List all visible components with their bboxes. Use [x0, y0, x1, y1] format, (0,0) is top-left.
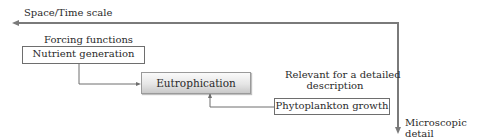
arrow-down-icon: [395, 127, 401, 134]
node-phytoplankton-growth: Phytoplankton growth: [274, 98, 390, 115]
space-time-axis: [12, 20, 398, 26]
connector-nutrient-eutrophication: [79, 63, 141, 86]
relevant-description-label: Relevant for a detailed description: [285, 69, 385, 91]
microscopic-detail-label: Microscopic detail: [405, 117, 467, 139]
node-eutrophication: Eutrophication: [141, 72, 251, 94]
node-label: Eutrophication: [156, 77, 236, 89]
relevant-line-1: Relevant for a detailed: [285, 69, 385, 80]
node-nutrient-generation: Nutrient generation: [22, 46, 145, 64]
arrow-left-icon: [12, 20, 19, 26]
relevant-line-2: description: [285, 80, 385, 91]
connector-phytoplankton-eutrophication: [208, 93, 274, 107]
microscopic-line-1: Microscopic: [405, 117, 467, 128]
node-label: Nutrient generation: [33, 48, 135, 59]
node-label: Phytoplankton growth: [276, 100, 389, 111]
space-time-scale-label: Space/Time scale: [24, 7, 112, 18]
microscopic-line-2: detail: [405, 128, 467, 139]
forcing-functions-label: Forcing functions: [44, 34, 133, 45]
